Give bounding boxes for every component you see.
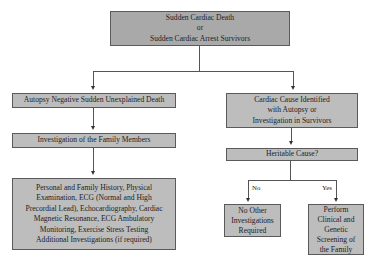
root-line-1: Sudden Cardiac Death bbox=[150, 13, 250, 24]
yes-outcome-line-5: the Family bbox=[317, 245, 356, 255]
yes-outcome-line-4: Screening of bbox=[317, 235, 356, 245]
arrow-down-icon bbox=[289, 141, 293, 145]
investigations-line-3: Precordial Lead), Echocardiography, Card… bbox=[25, 204, 162, 215]
node-investigations-list: Personal and Family History, Physical Ex… bbox=[12, 178, 176, 250]
node-autopsy-negative: Autopsy Negative Sudden Unexplained Deat… bbox=[12, 93, 176, 108]
arrow-down-icon bbox=[291, 86, 295, 90]
node-no-other-investigations: No Other Investigations Required bbox=[224, 204, 281, 237]
connector-no-drop bbox=[248, 180, 249, 199]
branch-label-no: No bbox=[252, 184, 260, 192]
root-line-2: or bbox=[150, 23, 250, 34]
arrow-down-icon bbox=[91, 171, 95, 175]
node-autopsy-negative-text: Autopsy Negative Sudden Unexplained Deat… bbox=[24, 95, 164, 106]
cardiac-cause-line-2: with Autopsy or bbox=[253, 105, 332, 116]
investigations-line-2: Examination, ECG (Normal and High bbox=[25, 193, 162, 204]
investigations-line-1: Personal and Family History, Physical bbox=[25, 183, 162, 194]
root-line-3: Sudden Cardiac Arrest Survivors bbox=[150, 34, 250, 45]
connector-root-horizontal bbox=[93, 71, 294, 72]
investigations-line-4: Magnetic Resonance, ECG Ambulatory bbox=[25, 214, 162, 225]
cardiac-cause-line-1: Cardiac Cause Identified bbox=[253, 95, 332, 106]
connector-yes-drop bbox=[336, 180, 337, 199]
arrow-down-icon bbox=[246, 198, 250, 202]
connector-left-drop bbox=[93, 71, 94, 87]
node-investigation-family: Investigation of the Family Members bbox=[12, 133, 176, 148]
connector-root-stem bbox=[199, 46, 200, 71]
connector-decision-horizontal bbox=[248, 180, 337, 181]
no-outcome-line-2: Investigations bbox=[231, 216, 274, 226]
node-cardiac-cause-identified: Cardiac Cause Identified with Autopsy or… bbox=[226, 93, 358, 128]
node-heritable-cause-decision: Heritable Cause? bbox=[226, 148, 358, 161]
connector-left-2 bbox=[93, 148, 94, 172]
heritable-cause-text: Heritable Cause? bbox=[266, 149, 318, 160]
root-node-sudden-cardiac-death: Sudden Cardiac Death or Sudden Cardiac A… bbox=[110, 11, 290, 46]
arrow-down-icon bbox=[91, 86, 95, 90]
yes-outcome-line-1: Perform bbox=[317, 205, 356, 215]
connector-left-1 bbox=[93, 108, 94, 127]
yes-outcome-line-3: Genetic bbox=[317, 225, 356, 235]
no-outcome-line-1: No Other bbox=[231, 206, 274, 216]
no-outcome-line-3: Required bbox=[231, 226, 274, 236]
connector-right-1 bbox=[291, 128, 292, 142]
yes-outcome-line-2: Clinical and bbox=[317, 215, 356, 225]
arrow-down-icon bbox=[334, 198, 338, 202]
investigations-line-6: Additional Investigations (if required) bbox=[25, 235, 162, 246]
node-perform-screening: Perform Clinical and Genetic Screening o… bbox=[308, 204, 364, 255]
branch-label-yes: Yes bbox=[322, 184, 332, 192]
cardiac-cause-line-3: Investigation in Survivors bbox=[253, 116, 332, 127]
node-investigation-family-text: Investigation of the Family Members bbox=[37, 135, 150, 146]
connector-right-drop bbox=[293, 71, 294, 87]
connector-decision-stem bbox=[290, 161, 291, 180]
investigations-line-5: Monitoring, Exercise Stress Testing bbox=[25, 225, 162, 236]
arrow-down-icon bbox=[91, 126, 95, 130]
